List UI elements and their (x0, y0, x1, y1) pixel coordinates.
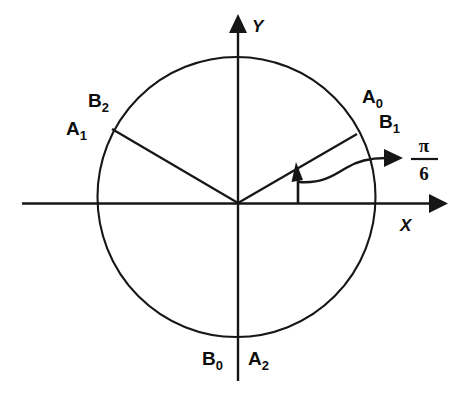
x-axis-label: X (399, 216, 413, 235)
angle-value-fraction: π 6 (411, 135, 438, 184)
label-a1: A1 (66, 118, 87, 143)
label-b2-sub: 2 (102, 100, 109, 115)
label-a2-sub: 2 (262, 358, 269, 373)
label-a2: A2 (248, 348, 269, 373)
label-a1-base: A (66, 118, 80, 139)
label-b1: B1 (379, 111, 400, 136)
fraction-numerator: π (419, 135, 430, 156)
label-b1-base: B (379, 111, 393, 132)
label-b0: B0 (202, 348, 223, 373)
label-a0-sub: 0 (376, 96, 383, 111)
label-a0: A0 (362, 86, 383, 111)
circle-diagram: π 6 Y X A0 B1 B2 A1 B0 A2 (0, 0, 466, 394)
label-b2: B2 (88, 90, 109, 115)
label-a0-base: A (362, 86, 376, 107)
label-b1-sub: 1 (393, 121, 400, 136)
angle-leader-arrowhead (384, 149, 403, 167)
unit-circle (98, 57, 376, 337)
radius-line-left (112, 129, 238, 203)
y-axis-arrowhead (229, 14, 247, 33)
label-b0-sub: 0 (216, 358, 223, 373)
label-a2-base: A (248, 348, 262, 369)
label-b0-base: B (202, 348, 216, 369)
y-axis-label: Y (252, 17, 265, 36)
figure-root: π 6 Y X A0 B1 B2 A1 B0 A2 (0, 0, 466, 394)
label-a1-sub: 1 (80, 128, 87, 143)
label-b2-base: B (88, 90, 102, 111)
x-axis-arrowhead (429, 194, 448, 213)
fraction-denominator: 6 (419, 163, 429, 184)
